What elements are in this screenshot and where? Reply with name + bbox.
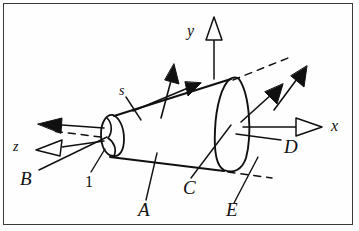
normal-vector-top: [161, 64, 179, 118]
surface-b-label: B: [20, 169, 32, 188]
cone-large-end-face: [215, 78, 250, 172]
surface-a-label: A: [138, 200, 150, 219]
leader-surface-d: [236, 134, 281, 140]
dashed-axis-upper-right: [233, 56, 293, 80]
cone-small-end-inner-rim: [107, 118, 115, 156]
tangent-vector-top: [133, 82, 201, 111]
surface-d-label: D: [284, 137, 298, 156]
leader-station-1: [91, 149, 105, 172]
leader-surface-e: [234, 157, 258, 203]
leader-surface-a: [146, 153, 157, 200]
y-axis-arrowhead: [206, 17, 222, 40]
x-axis-label: x: [331, 118, 338, 134]
diagram-artwork: [0, 0, 359, 231]
z-axis-label: z: [13, 140, 18, 154]
figure-canvas: y x z s B 1 A C D E: [0, 0, 359, 231]
flux-vector-left: [38, 118, 104, 133]
y-axis-label: y: [187, 23, 194, 39]
cone-upper-generator: [114, 79, 231, 116]
surface-c-label: C: [183, 178, 196, 197]
cone-lower-generator: [110, 157, 224, 171]
z-axis-arrowhead: [36, 140, 62, 156]
station-1-label: 1: [85, 174, 93, 190]
x-axis-arrowhead: [296, 118, 322, 136]
surface-e-label: E: [226, 200, 238, 219]
arc-length-label: s: [119, 84, 124, 98]
